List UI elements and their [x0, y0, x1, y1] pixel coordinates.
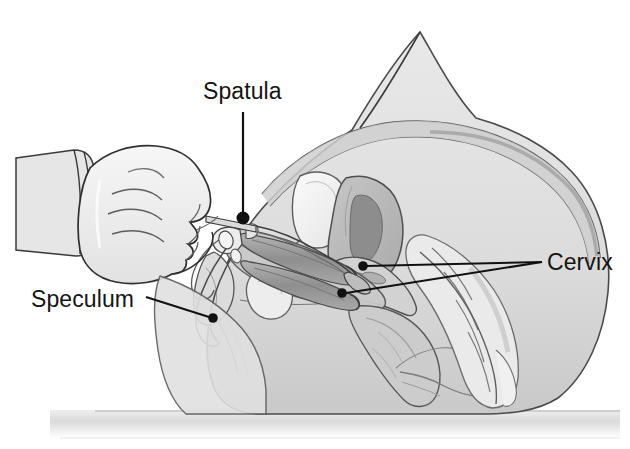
label-spatula: Spatula [203, 78, 282, 105]
medical-illustration-figure: Spatula Speculum Cervix [0, 0, 630, 449]
label-speculum: Speculum [31, 286, 134, 313]
leader-dot-cervix-lower [337, 288, 347, 298]
anatomy-illustration [0, 0, 630, 449]
leader-dot-cervix-upper [358, 261, 368, 271]
leader-dot-speculum [208, 313, 218, 323]
leader-dot-spatula [237, 212, 250, 225]
label-cervix: Cervix [547, 249, 613, 276]
gloved-hand [16, 146, 218, 284]
